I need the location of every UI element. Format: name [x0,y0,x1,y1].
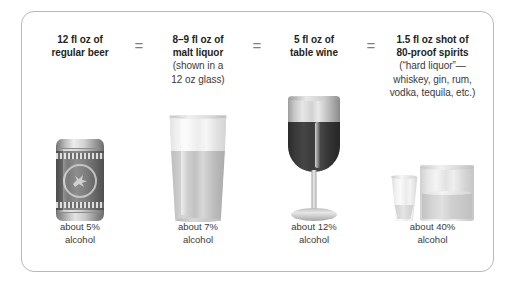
wine-foot [291,208,337,221]
footer-line: about 5% [60,221,100,234]
wine-rim [288,96,340,101]
footer-line: about 12% [291,221,336,234]
wine-glass-icon [286,96,342,221]
caption-line: regular beer [51,46,108,59]
can-emblem-art [69,172,91,190]
spirits-tumbler [420,165,474,221]
caption-spirits: 1.5 fl oz shot of 80-proof spirits (“har… [390,33,476,99]
caption-line: 5 fl oz of [290,33,338,46]
footer-line: alcohol [60,234,100,247]
spirits-tumbler-liquid-surface [422,191,472,195]
footer-line: about 40% [410,221,455,234]
artwork-table-wine [257,59,371,221]
wine-liquid [288,122,340,172]
caption-note-line: 12 oz glass) [171,73,224,86]
glass-rim [169,115,227,119]
equivalence-row: 12 fl oz of regular beer [21,11,494,272]
artwork-spirits [371,99,494,221]
caption-line: 12 fl oz of [51,33,108,46]
beer-can-icon [56,139,104,221]
glass-base [175,218,221,222]
caption-line: 80-proof spirits [390,46,476,59]
figure-canvas: 12 fl oz of regular beer [0,0,516,284]
caption-line: 1.5 fl oz shot of [390,33,476,46]
caption-regular-beer: 12 fl oz of regular beer [51,33,108,59]
footer-line: alcohol [291,234,336,247]
caption-note-line: vodka, tequila, etc.) [390,86,476,99]
drink-column-spirits: 1.5 fl oz shot of 80-proof spirits (“har… [371,11,494,272]
can-label [56,151,104,210]
caption-note-line: (shown in a [171,59,224,72]
can-top [59,139,101,149]
spirits-shot-rim [391,175,417,179]
footer-line: alcohol [178,234,218,247]
caption-note-line: (“hard liquor”— [390,59,476,72]
drink-column-malt-liquor: 8–9 fl oz of malt liquor (shown in a 12 … [139,11,257,272]
footer-regular-beer: about 5% alcohol [60,221,100,246]
caption-line: 8–9 fl oz of [171,33,224,46]
glass-liquid [168,149,228,219]
caption-line: table wine [290,46,338,59]
caption-note-line: whiskey, gin, rum, [390,73,476,86]
caption-line: malt liquor [171,46,224,59]
caption-table-wine: 5 fl oz of table wine [290,33,338,59]
footer-malt-liquor: about 7% alcohol [178,221,218,246]
wine-bowl [288,96,340,172]
footer-spirits: about 40% alcohol [410,221,455,246]
drink-column-table-wine: 5 fl oz of table wine about 12% al [257,11,371,272]
spirits-tumbler-liquid [422,193,472,219]
can-band-bottom [56,202,104,208]
wine-liquid-highlight [315,122,320,168]
shot-glass-icon [390,163,476,221]
glass-foam [168,115,228,151]
pint-glass-icon [168,115,228,221]
footer-line: alcohol [410,234,455,247]
wine-stem [312,170,317,210]
can-bottom [59,212,101,221]
can-band-top [56,153,104,159]
footer-table-wine: about 12% alcohol [291,221,336,246]
artwork-regular-beer [21,59,139,221]
spirits-tumbler-rim [420,165,474,170]
drink-column-regular-beer: 12 fl oz of regular beer [21,11,139,272]
artwork-malt-liquor [139,86,257,221]
caption-malt-liquor: 8–9 fl oz of malt liquor (shown in a 12 … [171,33,224,86]
glass-highlight [181,119,187,215]
footer-line: about 7% [178,221,218,234]
